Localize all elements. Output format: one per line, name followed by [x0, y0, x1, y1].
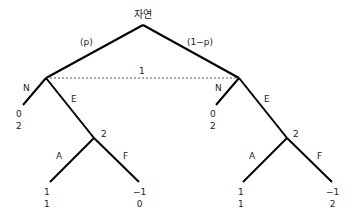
- left-player2-node-label: 2: [101, 129, 107, 139]
- payoff-player1: 1: [238, 186, 244, 198]
- edge-right-f: [287, 138, 332, 182]
- right-action-a-label: A: [249, 151, 255, 161]
- payoff-player1: −1: [326, 186, 339, 198]
- payoff-player2: 1: [44, 198, 50, 210]
- root-node-label: 자연: [134, 10, 152, 20]
- edge-root-right: [143, 25, 239, 78]
- edge-left-e: [46, 78, 94, 138]
- payoff-player1: −1: [133, 186, 146, 198]
- payoff-player2: 2: [326, 198, 339, 210]
- payoff-player2: 2: [16, 120, 22, 132]
- edge-root-left: [46, 25, 143, 78]
- left-probability-label: (p): [80, 37, 93, 47]
- right-player2-node-label: 2: [293, 129, 299, 139]
- left-payoff-f: −1 0: [133, 186, 146, 210]
- payoff-player1: 0: [210, 108, 216, 120]
- right-payoff-a: 1 1: [238, 186, 244, 210]
- right-payoff-n: 0 2: [210, 108, 216, 132]
- payoff-player2: 0: [133, 198, 146, 210]
- game-tree-edges: [0, 0, 352, 222]
- right-probability-label: (1−p): [187, 37, 213, 47]
- left-payoff-n: 0 2: [16, 108, 22, 132]
- edge-right-e: [239, 78, 287, 138]
- payoff-player2: 2: [210, 120, 216, 132]
- left-action-f-label: F: [123, 151, 128, 161]
- left-payoff-a: 1 1: [44, 186, 50, 210]
- right-action-f-label: F: [317, 151, 322, 161]
- left-action-n-label: N: [23, 83, 30, 93]
- payoff-player1: 0: [16, 108, 22, 120]
- edge-left-f: [94, 138, 139, 182]
- payoff-player1: 1: [44, 186, 50, 198]
- information-set-label: 1: [139, 66, 145, 76]
- left-action-e-label: E: [71, 94, 77, 104]
- left-action-a-label: A: [56, 151, 62, 161]
- right-action-e-label: E: [264, 94, 270, 104]
- right-payoff-f: −1 2: [326, 186, 339, 210]
- right-action-n-label: N: [215, 83, 222, 93]
- payoff-player2: 1: [238, 198, 244, 210]
